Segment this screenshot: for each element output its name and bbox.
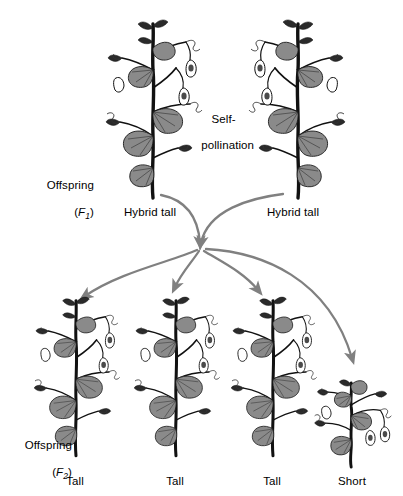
f1-plant-2-label: Hybrid tall xyxy=(253,206,333,219)
self-pollination-line-2: pollination xyxy=(201,139,254,151)
generation-label-f1: Offspring (F1) xyxy=(14,165,94,237)
f2-plant-3 xyxy=(224,277,322,467)
f2-plant-1-label: Tall xyxy=(45,475,105,488)
f1-plant-1-label: Hybrid tall xyxy=(110,206,190,219)
f2-plant-3-label: Tall xyxy=(242,475,302,488)
f2-plant-2-label: Tall xyxy=(145,475,205,488)
f1-subscript: 1 xyxy=(85,211,90,221)
f2-plant-4-label: Short xyxy=(322,475,382,488)
inheritance-diagram: Offspring (F1) Offspring (F2) Self- poll… xyxy=(0,0,403,496)
f2-plant-4-short xyxy=(311,358,395,470)
arrow-cross-left xyxy=(161,195,200,243)
f2-plant-2 xyxy=(127,277,225,467)
self-pollination-line-1: Self- xyxy=(212,113,236,125)
f1-plant-right xyxy=(243,8,353,200)
f1-offspring-word: Offspring xyxy=(47,179,94,191)
self-pollination-annotation: Self- pollination xyxy=(188,100,246,165)
f2-offspring-word: Offspring xyxy=(25,439,72,451)
